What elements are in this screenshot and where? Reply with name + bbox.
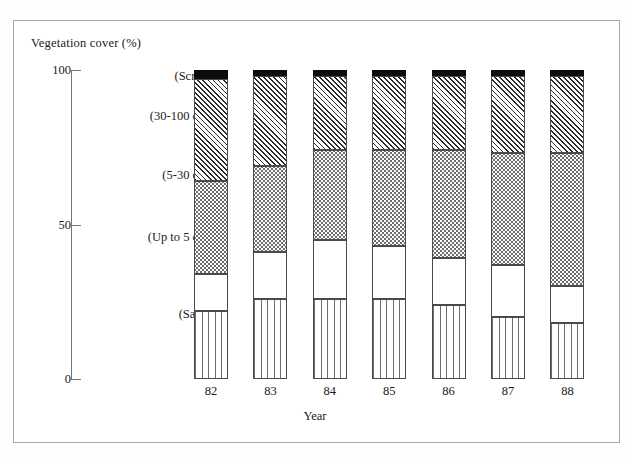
bar-segment-82-4[interactable] <box>194 70 228 79</box>
bar-segment-87-2[interactable] <box>491 153 525 264</box>
bar-segment-82-2[interactable] <box>194 181 228 274</box>
bar-segment-84-4[interactable] <box>313 70 347 76</box>
bar-segment-87-0[interactable] <box>491 317 525 379</box>
bar-segment-84-3[interactable] <box>313 76 347 150</box>
bar-segment-88-3[interactable] <box>550 76 584 153</box>
bar-segment-85-2[interactable] <box>372 150 406 246</box>
bar-82[interactable] <box>194 70 228 379</box>
x-axis-tick-label-87: 87 <box>491 384 525 399</box>
bar-83[interactable] <box>253 70 287 379</box>
x-axis-tick-label-84: 84 <box>313 384 347 399</box>
bar-segment-88-1[interactable] <box>550 286 584 323</box>
bar-segment-88-0[interactable] <box>550 323 584 379</box>
bar-segment-82-1[interactable] <box>194 274 228 311</box>
bar-87[interactable] <box>491 70 525 379</box>
bar-segment-84-0[interactable] <box>313 299 347 379</box>
stacked-bar-plot-area: 82838485868788 <box>0 0 630 460</box>
x-axis-title: Year <box>0 409 630 424</box>
figure-canvas: Vegetation cover (%) 050100 (Sand)(Up to… <box>0 0 630 460</box>
bar-segment-82-3[interactable] <box>194 79 228 181</box>
x-axis-tick-label-83: 83 <box>253 384 287 399</box>
bar-segment-83-3[interactable] <box>253 76 287 166</box>
bar-85[interactable] <box>372 70 406 379</box>
bar-segment-87-4[interactable] <box>491 70 525 76</box>
bar-segment-87-3[interactable] <box>491 76 525 153</box>
bar-segment-85-4[interactable] <box>372 70 406 76</box>
bar-segment-83-4[interactable] <box>253 70 287 76</box>
bar-segment-84-1[interactable] <box>313 240 347 299</box>
bar-84[interactable] <box>313 70 347 379</box>
x-axis-tick-label-85: 85 <box>372 384 406 399</box>
bar-segment-88-4[interactable] <box>550 70 584 76</box>
bar-segment-82-0[interactable] <box>194 311 228 379</box>
bar-86[interactable] <box>432 70 466 379</box>
x-axis-tick-label-88: 88 <box>550 384 584 399</box>
bar-segment-87-1[interactable] <box>491 265 525 318</box>
bar-segment-86-1[interactable] <box>432 258 466 304</box>
bar-segment-86-2[interactable] <box>432 150 466 258</box>
bar-88[interactable] <box>550 70 584 379</box>
bar-segment-83-0[interactable] <box>253 299 287 379</box>
bar-segment-88-2[interactable] <box>550 153 584 286</box>
bar-segment-83-1[interactable] <box>253 252 287 298</box>
bar-segment-84-2[interactable] <box>313 150 347 240</box>
bar-segment-85-0[interactable] <box>372 299 406 379</box>
bar-segment-83-2[interactable] <box>253 166 287 253</box>
x-axis-tick-label-86: 86 <box>432 384 466 399</box>
x-axis-tick-label-82: 82 <box>194 384 228 399</box>
bar-segment-86-4[interactable] <box>432 70 466 76</box>
bar-segment-85-3[interactable] <box>372 76 406 150</box>
bar-segment-86-0[interactable] <box>432 305 466 379</box>
bar-segment-85-1[interactable] <box>372 246 406 299</box>
bar-segment-86-3[interactable] <box>432 76 466 150</box>
